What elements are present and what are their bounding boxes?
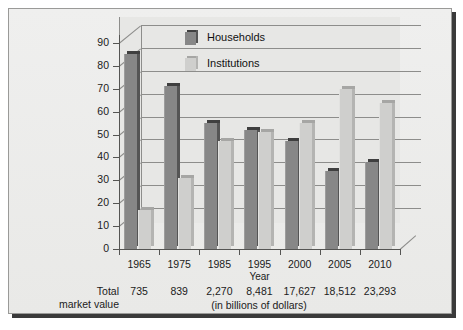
y-axis-tick-label: 0 [83, 243, 109, 253]
x-axis-tick-label: 2010 [358, 258, 402, 270]
y-axis-tick-label: 70 [83, 83, 109, 93]
x-axis-title: Year [238, 271, 282, 282]
x-axis-tick [320, 249, 321, 255]
legend-swatch-institutions-icon [185, 56, 198, 71]
x-axis-tick [239, 249, 240, 255]
bar-households-1965 [124, 54, 137, 249]
bar-institutions-1965 [138, 210, 151, 249]
total-label-line2: market value [27, 298, 119, 311]
bar-households-1985 [204, 123, 217, 249]
y-axis-tick [113, 180, 119, 181]
total-market-value-label: Total market value [27, 285, 119, 311]
x-axis-tick-label: 1985 [197, 258, 241, 270]
gridline [141, 94, 421, 95]
x-axis-tick [400, 249, 401, 255]
bar-institutions-2005 [339, 89, 352, 249]
bar-institutions-2010 [379, 103, 392, 249]
chart-panel: 0102030405060708090 19651975198519952000… [8, 8, 452, 314]
x-axis-tick-label: 1995 [238, 258, 282, 270]
x-axis-tick [159, 249, 160, 255]
y-axis-tick [113, 157, 119, 158]
y-axis-tick-label: 30 [83, 174, 109, 184]
total-label-line1: Total [27, 285, 119, 298]
y-axis-tick [113, 203, 119, 204]
legend-item-households: Households [185, 27, 265, 47]
x-axis-tick-label: 1965 [117, 258, 161, 270]
y-axis-tick [113, 226, 119, 227]
y-axis-tick-label: 80 [83, 60, 109, 70]
bar-institutions-2000 [299, 123, 312, 249]
y-axis-line [119, 35, 120, 249]
x-axis-tick [199, 249, 200, 255]
x-axis-tick-label: 2000 [278, 258, 322, 270]
bar-institutions-1975 [178, 178, 191, 249]
y-axis-tick-label: 90 [83, 37, 109, 47]
x-axis-tick [280, 249, 281, 255]
y-axis-tick-label: 20 [83, 197, 109, 207]
chart-figure: 0102030405060708090 19651975198519952000… [0, 0, 463, 330]
gridline [141, 25, 421, 26]
legend-swatch-households-icon [185, 30, 198, 45]
bar-households-2010 [365, 162, 378, 249]
bar-institutions-1995 [258, 132, 271, 249]
units-note: (in billions of dollars) [159, 299, 359, 311]
y-axis-tick [113, 135, 119, 136]
x-axis-tick [360, 249, 361, 255]
bar-households-1995 [244, 130, 257, 249]
x-axis-tick-label: 2005 [318, 258, 362, 270]
bar-households-2000 [285, 141, 298, 249]
x-axis-tick-label: 1975 [157, 258, 201, 270]
bar-households-1975 [164, 86, 177, 249]
y-axis-tick-label: 50 [83, 129, 109, 139]
total-market-value-2010: 23,293 [354, 285, 406, 297]
x-axis-line [119, 249, 400, 250]
gridline [141, 71, 421, 72]
y-axis-tick [113, 66, 119, 67]
legend-label-households: Households [207, 31, 265, 43]
plot-area: 0102030405060708090 19651975198519952000… [9, 9, 453, 315]
bar-households-2005 [325, 171, 338, 249]
legend: Households Institutions [185, 27, 265, 79]
legend-item-institutions: Institutions [185, 53, 265, 73]
y-axis-tick [113, 43, 119, 44]
legend-label-institutions: Institutions [207, 57, 260, 69]
floor-depth-edge [400, 235, 417, 250]
bar-institutions-1985 [218, 141, 231, 249]
y-axis-tick [113, 89, 119, 90]
gridline [141, 48, 421, 49]
y-axis-tick [113, 112, 119, 113]
back-wall-left-edge [141, 25, 142, 231]
y-axis-tick-label: 40 [83, 151, 109, 161]
y-axis-tick-label: 10 [83, 220, 109, 230]
x-axis-tick [119, 249, 120, 255]
y-axis-tick-label: 60 [83, 106, 109, 116]
